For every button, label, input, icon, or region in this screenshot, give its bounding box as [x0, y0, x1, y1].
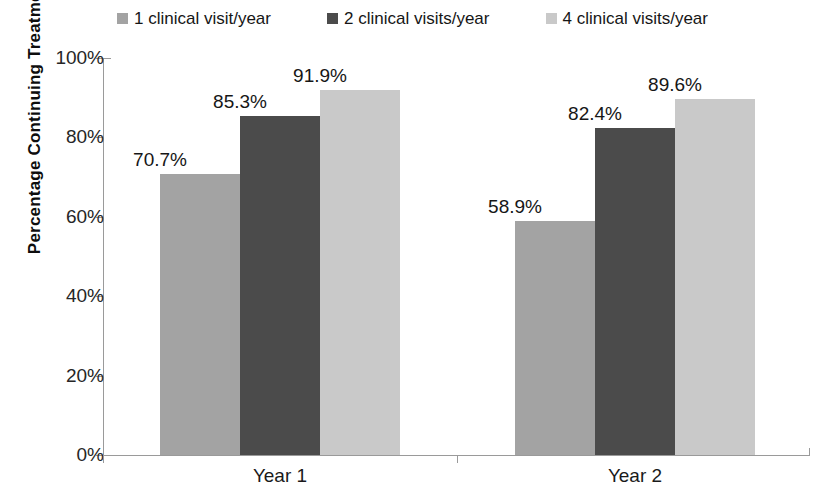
bar-value-label-year1-4-visits: 91.9% — [280, 66, 360, 85]
legend-label-2-visits: 2 clinical visits/year — [344, 10, 490, 27]
legend-swatch-icon-4-visits — [546, 13, 557, 24]
bar-year2-1-visit[interactable] — [515, 221, 595, 455]
y-tick-group-80: 80% — [0, 137, 104, 138]
x-axis-label-year-2: Year 2 — [555, 466, 715, 485]
bar-year1-1-visit[interactable] — [160, 174, 240, 455]
y-tick-group-100: 100% — [0, 58, 104, 59]
y-tick-label-20: 20% — [44, 366, 104, 385]
y-tick-label-80: 80% — [44, 127, 104, 146]
bar-value-label-year2-4-visits: 89.6% — [635, 75, 715, 94]
bar-chart: 1 clinical visit/year 2 clinical visits/… — [0, 0, 825, 490]
y-tick-group-40: 40% — [0, 296, 104, 297]
y-tick-group-60: 60% — [0, 217, 104, 218]
y-tick-label-60: 60% — [44, 207, 104, 226]
y-tick-label-40: 40% — [44, 286, 104, 305]
bar-value-label-year2-2-visits: 82.4% — [555, 104, 635, 123]
y-axis-title: Percentage Continuing Treatment — [25, 0, 55, 305]
legend-swatch-icon-2-visits — [327, 13, 338, 24]
legend-item-2-visits[interactable]: 2 clinical visits/year — [327, 10, 490, 27]
x-axis-label-year-1: Year 1 — [200, 466, 360, 485]
bar-year2-2-visits[interactable] — [595, 128, 675, 455]
y-tick-label-0: 0% — [44, 445, 104, 464]
bar-year1-4-visits[interactable] — [320, 90, 400, 455]
chart-legend: 1 clinical visit/year 2 clinical visits/… — [0, 4, 825, 32]
plot-area — [103, 58, 810, 455]
legend-item-1-visit[interactable]: 1 clinical visit/year — [117, 10, 271, 27]
y-tick-group-20: 20% — [0, 376, 104, 377]
bar-value-label-year1-2-visits: 85.3% — [200, 92, 280, 111]
bar-value-label-year1-1-visit: 70.7% — [120, 150, 200, 169]
x-tick-group-divider — [457, 455, 458, 463]
bar-year1-2-visits[interactable] — [240, 116, 320, 455]
bar-value-label-year2-1-visit: 58.9% — [475, 197, 555, 216]
legend-label-4-visits: 4 clinical visits/year — [563, 10, 709, 27]
bar-year2-4-visits[interactable] — [675, 99, 755, 455]
legend-label-1-visit: 1 clinical visit/year — [134, 10, 271, 27]
legend-item-4-visits[interactable]: 4 clinical visits/year — [546, 10, 709, 27]
y-tick-group-0: 0% — [0, 455, 104, 456]
y-tick-label-100: 100% — [44, 48, 104, 67]
legend-swatch-icon-1-visit — [117, 13, 128, 24]
x-tick-left — [103, 455, 104, 463]
